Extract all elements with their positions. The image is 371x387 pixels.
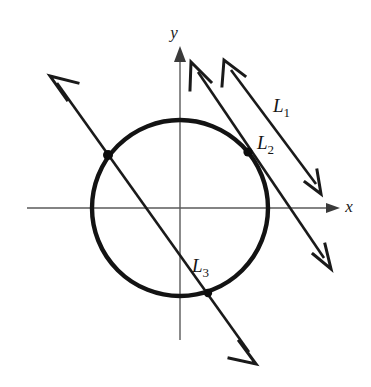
line-L3: [50, 76, 256, 364]
intersection-upper-left-dot: [103, 150, 113, 160]
geometry-figure: x y L1 L2 L3: [0, 0, 371, 387]
line-L2-label-subscript: 2: [268, 142, 275, 157]
line-L3-label-subscript: 3: [203, 265, 210, 280]
line-L2-label: L2: [256, 132, 274, 157]
y-axis-arrowhead: [174, 46, 186, 62]
line-L3-arrowhead-start: [50, 76, 78, 100]
line-L3-label-base: L: [191, 255, 203, 276]
x-axis-arrowhead: [326, 203, 340, 213]
figure-canvas: x y L1 L2 L3: [0, 0, 371, 387]
line-L2-label-base: L: [256, 132, 268, 153]
y-axis-label: y: [168, 23, 178, 42]
line-L1: [222, 60, 321, 194]
line-L1-label-base: L: [272, 95, 284, 116]
line-L1-label-subscript: 1: [284, 105, 291, 120]
line-L1-label: L1: [272, 95, 290, 120]
intersection-lower-dot: [204, 289, 212, 297]
line-L3-arrowhead-end: [229, 341, 256, 364]
tangent-point-L2-dot: [243, 147, 252, 156]
line-L1-segment: [231, 70, 316, 184]
x-axis-label: x: [344, 197, 353, 216]
line-L2-segment: [198, 72, 324, 258]
